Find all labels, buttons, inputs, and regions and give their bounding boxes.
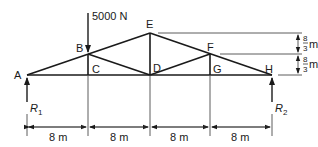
svg-text:m: m xyxy=(309,38,318,50)
vertical-dimension-lower: 8 3 m xyxy=(303,55,318,74)
joint-label-e: E xyxy=(146,18,153,30)
vertical-extension-lines xyxy=(158,33,302,75)
joint-label-c: C xyxy=(92,63,100,75)
dimension-label-df: 8 m xyxy=(170,131,188,143)
reaction-label-r2: R2 xyxy=(275,102,288,117)
svg-text:3: 3 xyxy=(303,65,308,74)
joint-label-b: B xyxy=(76,42,83,54)
reaction-label-r1: R1 xyxy=(30,102,43,117)
load-label: 5000 N xyxy=(92,10,128,22)
svg-text:8: 8 xyxy=(303,34,308,43)
dimension-label-bd: 8 m xyxy=(110,131,128,143)
dimension-label-ab: 8 m xyxy=(49,131,67,143)
svg-text:3: 3 xyxy=(303,44,308,53)
vertical-dimension-upper: 8 3 m xyxy=(303,34,318,53)
joint-label-g: G xyxy=(213,63,222,75)
joint-label-f: F xyxy=(207,41,214,53)
dimension-label-fh: 8 m xyxy=(231,131,249,143)
truss-diagram: A B C D E F G H 5000 N R1 R2 8 m 8 m 8 m… xyxy=(0,0,318,147)
joint-label-h: H xyxy=(265,63,273,75)
joint-label-d: D xyxy=(153,62,161,74)
svg-text:m: m xyxy=(309,58,318,70)
joint-label-a: A xyxy=(14,69,22,81)
svg-text:8: 8 xyxy=(303,55,308,64)
